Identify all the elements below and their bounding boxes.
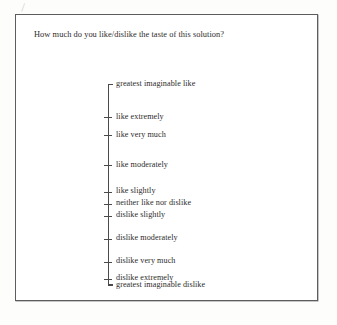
scale-anchor-label: like very much (116, 130, 166, 140)
questionnaire-card: How much do you like/dislike the taste o… (15, 14, 318, 301)
scale-anchor-label: dislike moderately (116, 233, 178, 243)
scale-tick-icon (104, 239, 112, 240)
scale-tick-icon (104, 117, 112, 118)
scale-anchor-label: like slightly (116, 186, 156, 196)
scale-tick-icon (104, 165, 112, 166)
scale-axis-line (108, 84, 109, 285)
scale-anchor-label: like extremely (116, 112, 164, 122)
scale-tick-icon (104, 192, 112, 193)
scale-anchor-label: dislike slightly (116, 210, 165, 220)
scale-tick-icon (108, 84, 113, 85)
scale-anchor-label: dislike very much (116, 256, 176, 266)
scale-tick-icon (104, 279, 112, 280)
scale-anchor-label: neither like nor dislike (116, 198, 191, 208)
hedonic-scale[interactable]: greatest imaginable likelike extremelyli… (108, 84, 258, 285)
scale-anchor-label: greatest imaginable dislike (116, 280, 205, 290)
scale-tick-icon (108, 285, 113, 286)
scale-anchor-label: greatest imaginable like (116, 79, 195, 89)
scan-artifact-mark: ⁄ (21, 0, 33, 13)
scale-anchor-label: like moderately (116, 160, 168, 170)
scale-tick-icon (104, 135, 112, 136)
scale-tick-icon (104, 262, 112, 263)
scale-tick-icon (104, 204, 112, 205)
scale-tick-icon (104, 216, 112, 217)
question-text: How much do you like/dislike the taste o… (34, 29, 224, 40)
